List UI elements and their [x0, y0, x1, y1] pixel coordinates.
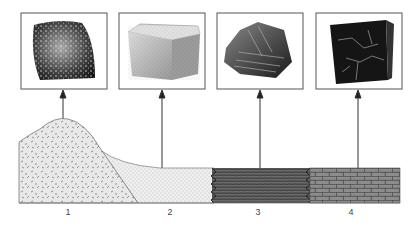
shale-layer: [212, 168, 310, 203]
sample-box-1: [21, 13, 107, 89]
sample-box-3: [217, 13, 303, 89]
rock-diagram: [0, 0, 417, 229]
marble-sample-icon: [330, 20, 388, 84]
label-3: 3: [255, 207, 260, 217]
sample-box-4: [316, 13, 402, 89]
arrow-up-icon: [159, 90, 165, 98]
sample-box-2: [119, 13, 205, 89]
label-1: 1: [65, 207, 70, 217]
limestone-layer: [310, 168, 400, 203]
ground-cross-section: [19, 118, 400, 203]
label-2: 2: [167, 207, 172, 217]
arrow-up-icon: [60, 90, 66, 98]
arrow-up-icon: [257, 90, 263, 98]
arrow-up-icon: [355, 90, 361, 98]
label-4: 4: [348, 207, 353, 217]
